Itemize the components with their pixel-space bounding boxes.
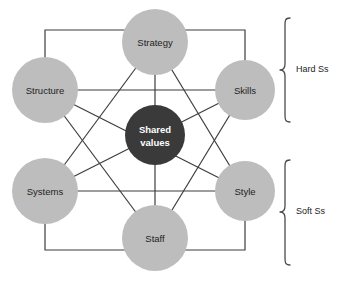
style-label: Style xyxy=(234,186,255,197)
node-staff[interactable]: Staff xyxy=(122,205,188,271)
soft-ss-brace-icon xyxy=(280,160,290,265)
node-structure[interactable]: Structure xyxy=(12,57,78,123)
node-systems[interactable]: Systems xyxy=(12,158,78,224)
shared-values-circle[interactable] xyxy=(125,105,185,165)
systems-label: Systems xyxy=(27,186,64,197)
hard-ss-brace-icon xyxy=(280,18,290,122)
skills-label: Skills xyxy=(234,85,256,96)
seven-s-framework-diagram: Strategy Skills Style Staff Systems Stru… xyxy=(0,0,349,281)
node-skills[interactable]: Skills xyxy=(215,60,275,120)
node-shared-values[interactable]: Shared values xyxy=(125,105,185,165)
hard-ss-label: Hard Ss xyxy=(296,64,329,74)
strategy-label: Strategy xyxy=(137,37,173,48)
shared-values-label-line1: Shared xyxy=(139,124,171,135)
soft-ss-label: Soft Ss xyxy=(296,206,326,216)
shared-values-label-line2: values xyxy=(140,137,170,148)
diagram-canvas: Strategy Skills Style Staff Systems Stru… xyxy=(0,0,349,281)
staff-label: Staff xyxy=(145,233,165,244)
node-style[interactable]: Style xyxy=(215,161,275,221)
bracket-hard-ss: Hard Ss xyxy=(280,18,329,122)
bracket-soft-ss: Soft Ss xyxy=(280,160,326,265)
node-strategy[interactable]: Strategy xyxy=(122,9,188,75)
structure-label: Structure xyxy=(26,85,65,96)
